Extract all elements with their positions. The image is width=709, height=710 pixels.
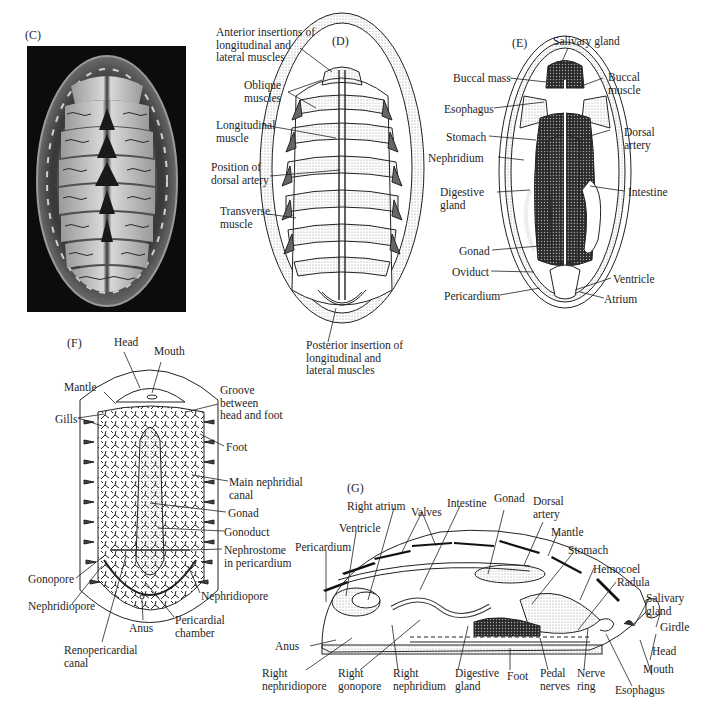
- label-longitudinal-muscle: Longitudinal muscle: [216, 119, 275, 144]
- label-g-ventricle: Ventricle: [339, 522, 381, 535]
- label-transverse-muscle: Transverse muscle: [220, 205, 270, 230]
- label-f-mantle: Mantle: [64, 381, 97, 394]
- label-g-esophagus: Esophagus: [615, 684, 665, 697]
- label-g-anus: Anus: [275, 640, 299, 653]
- label-f-main-nephridial-canal: Main nephridial canal: [229, 476, 303, 501]
- label-e-ventricle: Ventricle: [613, 273, 655, 286]
- label-g-foot: Foot: [507, 670, 528, 683]
- label-g-valves: Valves: [411, 506, 442, 519]
- label-g-mouth: Mouth: [643, 663, 674, 676]
- panel-d-letter: (D): [332, 34, 349, 49]
- label-e-stomach: Stomach: [446, 131, 486, 144]
- label-e-atrium: Atrium: [604, 293, 637, 306]
- label-f-mouth: Mouth: [154, 345, 185, 358]
- label-g-nerve-ring: Nerve ring: [577, 667, 605, 692]
- label-e-dorsal-artery: Dorsal artery: [624, 126, 655, 151]
- label-g-dorsal-artery: Dorsal artery: [533, 495, 564, 520]
- label-f-foot: Foot: [226, 441, 247, 454]
- label-anterior-insertions: Anterior insertions of longitudinal and …: [216, 26, 315, 64]
- label-g-intestine: Intestine: [447, 497, 487, 510]
- label-f-gonoduct: Gonoduct: [224, 526, 269, 539]
- panel-g-letter: (G): [347, 481, 364, 496]
- label-f-head: Head: [114, 336, 138, 349]
- label-e-buccal-muscle: Buccal muscle: [608, 71, 641, 96]
- panel-f-letter: (F): [67, 336, 82, 351]
- label-f-groove: Groove between head and foot: [220, 384, 283, 422]
- label-e-pericardium: Pericardium: [444, 290, 500, 303]
- label-e-digestive-gland: Digestive gland: [440, 186, 484, 211]
- label-oblique-muscles: Oblique muscles: [244, 79, 281, 104]
- label-g-pericardium: Pericardium: [295, 541, 351, 554]
- label-posterior-insertion: Posterior insertion of longitudinal and …: [306, 339, 403, 377]
- label-f-nephridiopore-right: Nephridiopore: [201, 590, 268, 603]
- label-f-pericardial-chamber: Pericardial chamber: [175, 614, 225, 639]
- label-e-salivary-gland: Salivary gland: [553, 35, 620, 48]
- label-f-gonad: Gonad: [228, 507, 259, 520]
- label-g-pedal-nerves: Pedal nerves: [540, 667, 570, 692]
- label-f-gonopore: Gonopore: [28, 573, 74, 586]
- label-g-right-nephridiopore: Right nephridiopore: [262, 667, 327, 692]
- label-f-renopericardial-canal: Renopericardial canal: [64, 644, 137, 669]
- label-g-digestive-gland: Digestive gland: [455, 667, 499, 692]
- label-e-nephridium: Nephridium: [428, 152, 484, 165]
- label-e-intestine: Intestine: [628, 186, 668, 199]
- label-g-salivary-gland: Salivary gland: [646, 592, 684, 617]
- label-f-gills: Gills: [55, 413, 77, 426]
- label-f-nephrostome: Nephrostome in pericardium: [224, 544, 291, 569]
- label-e-oviduct: Oviduct: [452, 266, 489, 279]
- label-f-nephridiopore-left: Nephridiopore: [28, 600, 95, 613]
- panel-e-letter: (E): [512, 36, 527, 51]
- label-g-right-atrium: Right atrium: [347, 500, 405, 513]
- label-dorsal-artery-position: Position of dorsal artery: [211, 161, 269, 186]
- label-g-radula: Radula: [617, 576, 650, 589]
- label-g-mantle: Mantle: [551, 526, 584, 539]
- label-g-girdle: Girdle: [660, 621, 689, 634]
- label-g-head: Head: [652, 645, 676, 658]
- label-g-hemocoel: Hemocoel: [593, 563, 640, 576]
- label-f-anus: Anus: [129, 622, 153, 635]
- label-g-gonad: Gonad: [494, 492, 525, 505]
- label-e-gonad: Gonad: [459, 245, 490, 258]
- label-g-right-gonopore: Right gonopore: [338, 667, 381, 692]
- label-e-buccal-mass: Buccal mass: [453, 72, 511, 85]
- label-g-stomach: Stomach: [568, 544, 608, 557]
- label-g-right-nephridium: Right nephridium: [393, 667, 446, 692]
- label-e-esophagus: Esophagus: [444, 103, 494, 116]
